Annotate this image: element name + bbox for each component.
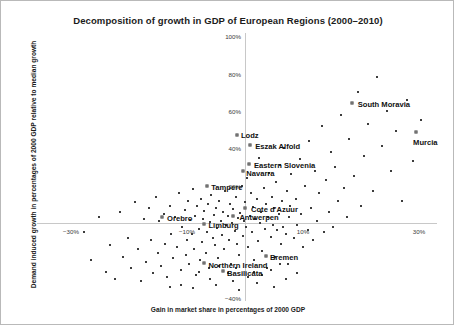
data-point [180,269,182,271]
data-point-label: Lodz [241,131,259,140]
data-point [386,110,388,112]
data-point [242,235,244,237]
data-point [166,276,168,278]
data-point [169,205,171,207]
data-point [232,208,234,210]
data-point [296,224,298,226]
data-point [304,185,306,187]
data-point [114,278,116,280]
data-point [164,243,166,245]
data-point [180,284,182,286]
data-point [288,216,290,218]
data-point [193,248,195,250]
data-point [276,229,278,231]
data-point [209,278,211,280]
data-point [160,265,162,267]
data-point [363,155,365,157]
data-point-labeled [244,207,247,210]
x-tick-label: −30% [63,228,79,235]
data-point [155,196,157,198]
data-point [334,166,336,168]
data-point [307,229,309,231]
data-point [210,194,212,196]
data-point-label: Bremen [270,253,298,262]
data-point-labeled [203,222,206,225]
data-point [134,201,136,203]
data-point [287,263,289,265]
data-point [181,226,183,228]
data-point [143,218,145,220]
data-point [90,259,92,261]
data-point [325,179,327,181]
data-point [170,233,172,235]
data-point [222,211,224,213]
data-point [281,200,283,202]
data-point [227,215,229,217]
data-point [282,226,284,228]
data-point [229,203,231,205]
data-point [201,241,203,243]
data-point-labeled [232,215,235,218]
data-point [245,226,247,228]
data-point [83,231,85,233]
data-point [214,244,216,246]
data-point [372,190,374,192]
data-point [200,198,202,200]
data-point [172,257,174,259]
data-point [420,119,422,121]
data-point [205,252,207,254]
data-point [285,233,287,235]
data-point [198,271,200,273]
data-point [340,114,342,116]
data-point [308,140,310,142]
data-point [163,213,165,215]
data-point [343,187,345,189]
data-point [109,244,111,246]
data-point [238,254,240,256]
x-tick-label: 30% [413,228,425,235]
data-point-labeled [350,101,353,104]
data-point [223,248,225,250]
data-point [158,220,160,222]
data-point [207,203,209,205]
data-point [273,286,275,288]
data-point [258,157,260,159]
data-point [318,192,320,194]
data-point-labeled [206,185,209,188]
data-point [192,188,194,190]
data-point [238,289,240,291]
y-tick-label: 40% [229,145,241,152]
data-point [357,91,359,93]
data-point-label: South Moravia [358,100,410,109]
data-point [236,243,238,245]
data-point [202,218,204,220]
data-point [257,240,259,242]
data-point [381,145,383,147]
data-point [169,286,171,288]
data-point [367,123,369,125]
data-point [360,205,362,207]
data-point-label: Orebro [167,214,192,223]
data-point [247,246,249,248]
data-point [140,280,142,282]
data-point-labeled [415,131,418,134]
data-point [130,267,132,269]
data-point [348,138,350,140]
data-point [122,256,124,258]
data-point [401,200,403,202]
y-tick-label: 80% [229,70,241,77]
data-point [296,272,298,274]
data-point-label: Navarra [246,169,274,178]
data-point [196,205,198,207]
data-point [264,228,266,230]
data-point [261,250,263,252]
data-point [217,257,219,259]
data-point-label: Basilicata [227,269,262,278]
data-point [310,207,312,209]
data-point [328,211,330,213]
data-point [316,220,318,222]
data-point [98,216,100,218]
data-point-labeled [161,216,164,219]
data-point [105,271,107,273]
data-point [250,192,252,194]
